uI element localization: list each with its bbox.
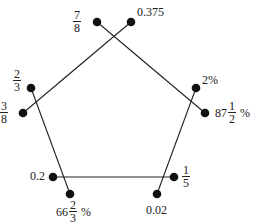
dot-87-1-2-percent[interactable]: [201, 109, 210, 118]
whole-part: 66: [56, 206, 68, 218]
dot-66-2-3-percent[interactable]: [66, 190, 75, 199]
percent-sign: %: [81, 206, 91, 218]
percent-sign: %: [240, 107, 250, 119]
fraction: 7 8: [73, 9, 81, 34]
dot-0-02[interactable]: [153, 190, 162, 199]
mixed-number: 66 2 3 %: [56, 199, 91, 224]
denominator: 3: [69, 212, 77, 224]
label-0-2: 0.2: [30, 170, 45, 182]
fraction: 3 8: [0, 100, 8, 125]
edge-7-8-to-87-1-2-percent: [97, 22, 205, 113]
fraction: 1 5: [182, 164, 190, 189]
dot-3-8[interactable]: [19, 109, 28, 118]
label-66-2-3-percent: 66 2 3 %: [56, 199, 91, 224]
denominator: 5: [182, 177, 190, 189]
fraction: 2 3: [13, 68, 21, 93]
dot-2-percent[interactable]: [192, 84, 201, 93]
label-2-percent: 2%: [202, 74, 218, 86]
fraction: 1 2: [228, 100, 236, 125]
fraction: 2 3: [69, 199, 77, 224]
denominator: 3: [13, 81, 21, 93]
edge-0-375-to-3-8: [23, 22, 131, 113]
denominator: 2: [228, 113, 236, 125]
dot-1-5[interactable]: [170, 173, 179, 182]
whole-part: 87: [215, 107, 227, 119]
denominator: 8: [0, 113, 8, 125]
label-0-375: 0.375: [137, 6, 164, 18]
dot-2-3[interactable]: [27, 84, 36, 93]
mixed-number: 87 1 2 %: [215, 100, 250, 125]
label-3-8: 3 8: [0, 100, 8, 125]
dot-0-2[interactable]: [49, 173, 58, 182]
label-1-5: 1 5: [182, 164, 190, 189]
label-2-3: 2 3: [13, 68, 21, 93]
dot-0-375[interactable]: [127, 18, 136, 27]
label-87-1-2-percent: 87 1 2 %: [215, 100, 250, 125]
denominator: 8: [73, 22, 81, 34]
label-7-8: 7 8: [73, 9, 81, 34]
label-0-02: 0.02: [146, 204, 167, 216]
dot-7-8[interactable]: [93, 18, 102, 27]
